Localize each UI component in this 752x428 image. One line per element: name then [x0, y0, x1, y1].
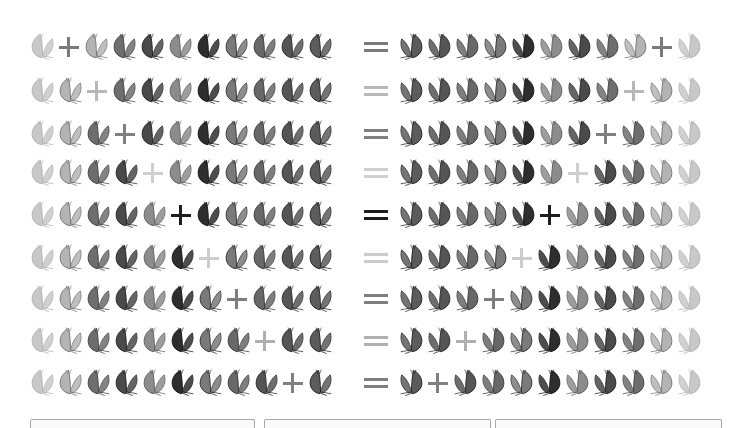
equation-row — [0, 114, 752, 154]
mottled-butterfly-icon — [453, 155, 481, 191]
tan-butterfly-icon — [166, 155, 194, 191]
painted-lady-butterfly-icon — [397, 197, 425, 233]
mottled-butterfly-icon — [250, 155, 278, 191]
red-admiral-butterfly-icon — [451, 365, 479, 401]
equation-row — [0, 279, 752, 319]
left-expression — [28, 279, 334, 319]
pale-yellow-butterfly-icon — [28, 197, 56, 233]
black-butterfly-icon — [509, 197, 537, 233]
white-skipper-butterfly-icon — [56, 240, 84, 276]
dark-swallowtail-butterfly-icon — [112, 197, 140, 233]
dark-swallowtail-butterfly-icon — [138, 29, 166, 65]
right-expression — [397, 363, 703, 403]
plus-sign — [252, 323, 278, 359]
painted-lady-butterfly-icon — [306, 323, 334, 359]
pale-yellow-butterfly-icon — [28, 116, 56, 152]
tan-butterfly-icon — [537, 116, 565, 152]
red-admiral-butterfly-icon — [425, 323, 453, 359]
plus-sign — [509, 240, 535, 276]
mottled-butterfly-icon — [250, 116, 278, 152]
tan-butterfly-icon — [563, 323, 591, 359]
black-butterfly-icon — [194, 197, 222, 233]
dark-swallowtail-butterfly-icon — [112, 323, 140, 359]
dark-swallowtail-butterfly-icon — [112, 365, 140, 401]
tan-butterfly-icon — [140, 281, 168, 317]
mottled-butterfly-icon — [453, 197, 481, 233]
pale-yellow-butterfly-icon — [675, 197, 703, 233]
small-brown-butterfly-icon — [593, 73, 621, 109]
small-brown-butterfly-icon — [84, 116, 112, 152]
equals-sign — [363, 114, 389, 154]
striped-swallowtail-butterfly-icon — [481, 240, 509, 276]
mottled-butterfly-icon — [250, 281, 278, 317]
red-admiral-butterfly-icon — [278, 281, 306, 317]
pale-yellow-butterfly-icon — [675, 155, 703, 191]
striped-swallowtail-butterfly-icon — [222, 155, 250, 191]
dark-swallowtail-butterfly-icon — [565, 29, 593, 65]
white-skipper-butterfly-icon — [56, 73, 84, 109]
right-expression — [397, 71, 703, 111]
equals-sign — [363, 71, 389, 111]
plus-sign — [196, 240, 222, 276]
striped-swallowtail-butterfly-icon — [507, 365, 535, 401]
small-brown-butterfly-icon — [84, 365, 112, 401]
painted-lady-butterfly-icon — [306, 155, 334, 191]
black-butterfly-icon — [194, 116, 222, 152]
dark-swallowtail-butterfly-icon — [591, 240, 619, 276]
pale-yellow-butterfly-icon — [675, 281, 703, 317]
plus-sign — [649, 29, 675, 65]
mottled-butterfly-icon — [250, 240, 278, 276]
mottled-butterfly-icon — [453, 116, 481, 152]
tan-butterfly-icon — [140, 197, 168, 233]
small-brown-butterfly-icon — [619, 281, 647, 317]
pale-yellow-butterfly-icon — [675, 365, 703, 401]
red-admiral-butterfly-icon — [425, 240, 453, 276]
black-butterfly-icon — [168, 240, 196, 276]
tan-butterfly-icon — [140, 365, 168, 401]
left-expression — [28, 363, 334, 403]
white-skipper-butterfly-icon — [647, 197, 675, 233]
black-butterfly-icon — [535, 281, 563, 317]
plus-sign — [537, 197, 563, 233]
equals-sign — [363, 321, 389, 361]
white-skipper-butterfly-icon — [56, 116, 84, 152]
plus-sign — [84, 73, 110, 109]
black-butterfly-icon — [509, 155, 537, 191]
white-skipper-butterfly-icon — [647, 73, 675, 109]
tan-butterfly-icon — [140, 323, 168, 359]
striped-swallowtail-butterfly-icon — [507, 281, 535, 317]
plus-sign — [593, 116, 619, 152]
painted-lady-butterfly-icon — [306, 281, 334, 317]
painted-lady-butterfly-icon — [397, 73, 425, 109]
dark-swallowtail-butterfly-icon — [112, 240, 140, 276]
pale-yellow-butterfly-icon — [675, 73, 703, 109]
tan-butterfly-icon — [537, 29, 565, 65]
red-admiral-butterfly-icon — [278, 155, 306, 191]
black-butterfly-icon — [194, 155, 222, 191]
tan-butterfly-icon — [563, 365, 591, 401]
right-expression — [397, 195, 703, 235]
small-brown-butterfly-icon — [619, 155, 647, 191]
pale-yellow-butterfly-icon — [675, 116, 703, 152]
painted-lady-butterfly-icon — [306, 29, 334, 65]
equation-row — [0, 71, 752, 111]
painted-lady-butterfly-icon — [397, 116, 425, 152]
white-skipper-butterfly-icon — [647, 116, 675, 152]
black-butterfly-icon — [509, 116, 537, 152]
white-skipper-butterfly-icon — [647, 323, 675, 359]
striped-swallowtail-butterfly-icon — [196, 281, 224, 317]
right-expression — [397, 27, 703, 67]
equals-sign — [363, 27, 389, 67]
mottled-butterfly-icon — [453, 281, 481, 317]
plus-sign — [224, 281, 250, 317]
painted-lady-butterfly-icon — [306, 240, 334, 276]
left-expression — [28, 238, 334, 278]
small-brown-butterfly-icon — [619, 365, 647, 401]
right-expression — [397, 238, 703, 278]
dark-swallowtail-butterfly-icon — [591, 155, 619, 191]
pale-yellow-butterfly-icon — [675, 323, 703, 359]
pale-yellow-butterfly-icon — [28, 365, 56, 401]
equals-sign — [363, 279, 389, 319]
dark-swallowtail-butterfly-icon — [591, 323, 619, 359]
white-skipper-butterfly-icon — [621, 29, 649, 65]
